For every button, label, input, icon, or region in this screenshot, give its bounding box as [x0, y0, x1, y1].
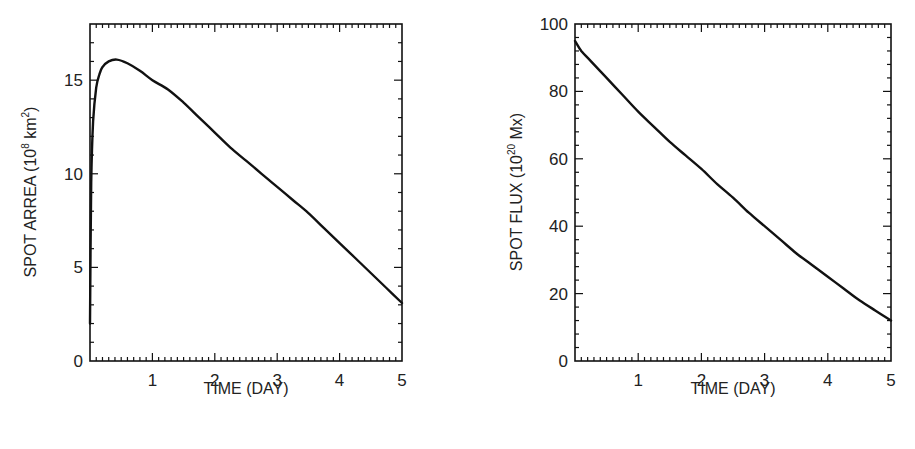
x-tick-label: 5: [886, 371, 895, 390]
spot-flux-curve: [575, 41, 891, 321]
x-tick-label: 1: [633, 371, 642, 390]
y-tick-label: 0: [74, 352, 83, 371]
x-tick-label: 5: [397, 371, 406, 390]
y-label-main: SPOT ARREA (10: [22, 149, 39, 278]
y-tick-label: 15: [64, 71, 83, 90]
y-tick-label: 0: [559, 352, 568, 371]
x-axis-label: TIME (DAY): [203, 380, 288, 397]
y-tick-labels: 051015: [64, 71, 83, 371]
y-tick-label: 100: [540, 15, 568, 34]
y-axis-label: SPOT ARREA (108 km2): [20, 107, 39, 278]
plot-frame: [575, 24, 891, 361]
y-label-sup: 20: [506, 143, 517, 155]
x-tick-label: 4: [823, 371, 832, 390]
x-tick-label: 4: [335, 371, 344, 390]
tick-marks: [90, 24, 402, 361]
figure: 051015 12345 TIME (DAY) SPOT ARREA (108 …: [0, 0, 915, 449]
plot-frame: [90, 24, 402, 361]
y-tick-label: 40: [549, 217, 568, 236]
y-label-main: SPOT FLUX (10: [508, 155, 525, 271]
spot-flux-panel: 020406080100 12345 TIME (DAY) SPOT FLUX …: [506, 15, 896, 397]
spot-area-panel: 051015 12345 TIME (DAY) SPOT ARREA (108 …: [20, 24, 407, 397]
y-tick-labels: 020406080100: [540, 15, 568, 371]
y-tick-label: 60: [549, 150, 568, 169]
y-label-end: ): [22, 107, 39, 112]
y-tick-label: 20: [549, 285, 568, 304]
y-tick-label: 10: [64, 165, 83, 184]
y-tick-label: 80: [549, 82, 568, 101]
y-tick-label: 5: [74, 258, 83, 277]
x-tick-label: 1: [148, 371, 157, 390]
y-label-unit: Mx): [508, 113, 525, 144]
y-axis-label: SPOT FLUX (1020 Mx): [506, 113, 525, 271]
y-label-unit: km: [22, 117, 39, 143]
x-axis-label: TIME (DAY): [690, 380, 775, 397]
spot-area-curve: [90, 60, 402, 324]
tick-marks: [575, 24, 891, 361]
